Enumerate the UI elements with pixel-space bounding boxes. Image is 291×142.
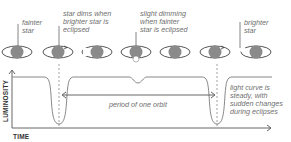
callout-dim-faint: slight dimming when fainter star is ecli… xyxy=(140,10,188,34)
star-system-1 xyxy=(2,46,32,59)
callout-dim-bright: star dims when brighter star is eclipsed xyxy=(63,10,111,34)
callout-brighter-star: brighter star xyxy=(244,19,268,35)
star-system-4 xyxy=(121,46,151,63)
star-system-6 xyxy=(200,46,230,59)
star-system-2 xyxy=(43,46,73,59)
period-label: period of one orbit xyxy=(109,101,167,109)
y-axis-label: LUMINOSITY xyxy=(2,80,9,122)
star-system-5 xyxy=(160,46,190,59)
star-system-3 xyxy=(82,46,112,59)
x-axis-label: TIME xyxy=(13,133,29,140)
callout-fainter-star: fainter star xyxy=(22,19,42,35)
star-system-7 xyxy=(241,46,271,59)
curve-note: light curve is steady, with sudden chang… xyxy=(230,84,283,116)
